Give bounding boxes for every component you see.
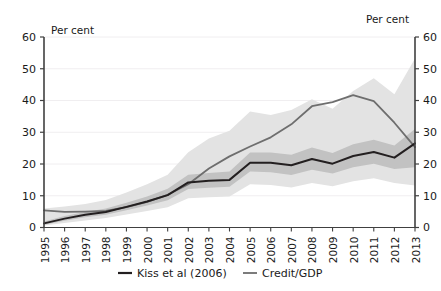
- x-tick-label: 2000: [142, 237, 154, 264]
- y-tick-label-left: 40: [22, 94, 36, 107]
- y-tick-label-right: 10: [423, 190, 437, 203]
- x-tick-label: 2011: [368, 237, 380, 264]
- legend-label-credit-gdp: Credit/GDP: [262, 267, 323, 280]
- chart-legend: Kiss et al (2006)Credit/GDP: [118, 267, 323, 280]
- y-tick-label-right: 40: [423, 94, 437, 107]
- y-tick-label-left: 0: [29, 221, 36, 234]
- x-tick-label: 1998: [100, 237, 112, 264]
- x-tick-label: 1999: [121, 237, 133, 264]
- y-tick-label-left: 20: [22, 158, 36, 171]
- x-tick-label: 2001: [162, 237, 174, 264]
- y-axis-left-unit-label: Per cent: [51, 24, 94, 36]
- y-tick-label-left: 10: [22, 190, 36, 203]
- chart-container: 0102030405060 0102030405060 199519961997…: [0, 0, 441, 291]
- y-tick-label-right: 0: [423, 221, 430, 234]
- x-tick-label: 2002: [183, 237, 195, 264]
- y-tick-label-right: 60: [423, 31, 437, 44]
- x-tick-label: 2006: [265, 236, 277, 263]
- x-tick-label: 2009: [327, 237, 339, 264]
- y-axis-right-unit-label: Per cent: [366, 13, 409, 25]
- x-tick-label: 2012: [389, 237, 401, 264]
- x-tick-label: 2005: [245, 237, 257, 264]
- y-tick-label-left: 50: [22, 63, 36, 76]
- line-chart: 0102030405060 0102030405060 199519961997…: [0, 0, 441, 291]
- x-tick-label: 2003: [203, 237, 215, 264]
- x-tick-label: 1996: [59, 236, 71, 263]
- x-tick-label: 1997: [80, 237, 92, 264]
- y-tick-label-right: 20: [423, 158, 437, 171]
- legend-label-kiss-et-al: Kiss et al (2006): [137, 267, 227, 280]
- y-tick-label-right: 30: [423, 126, 437, 139]
- y-tick-label-left: 60: [22, 31, 36, 44]
- x-tick-label: 2010: [348, 237, 360, 264]
- x-tick-label: 2013: [410, 237, 422, 264]
- y-tick-label-right: 50: [423, 63, 437, 76]
- x-tick-label: 2008: [306, 237, 318, 264]
- x-tick-label: 2007: [286, 237, 298, 264]
- y-tick-label-left: 30: [22, 126, 36, 139]
- x-tick-label: 2004: [224, 236, 236, 263]
- x-tick-label: 1995: [39, 237, 51, 264]
